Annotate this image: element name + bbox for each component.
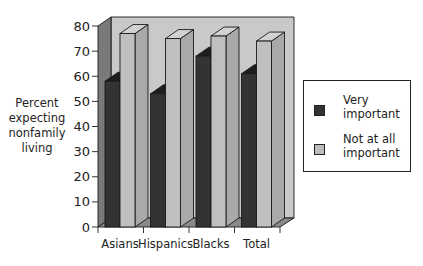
- bar-asians-very-important: [105, 81, 120, 227]
- legend: Very important Not at all important: [303, 80, 411, 172]
- bar-side: [135, 25, 148, 227]
- y-axis-label-line: nonfamily: [0, 126, 74, 141]
- y-tick-label: 20: [73, 169, 90, 184]
- x-category-label: Blacks: [192, 237, 229, 251]
- y-axis-label-line: living: [0, 141, 74, 156]
- bar-blacks-not-at-all-important: [211, 36, 226, 227]
- y-axis-label-line: expecting: [0, 111, 74, 126]
- x-category-label: Hispanics: [138, 237, 193, 251]
- y-tick-label: 50: [73, 94, 90, 109]
- bar-blacks-very-important: [196, 56, 211, 227]
- bar-hispanics-not-at-all-important: [166, 39, 181, 227]
- x-category-label: Asians: [101, 237, 138, 251]
- y-tick-label: 70: [73, 44, 90, 59]
- legend-label: important: [343, 107, 409, 121]
- y-tick-label: 0: [82, 220, 90, 235]
- y-tick-label: 80: [73, 19, 90, 34]
- bar-side: [272, 32, 285, 227]
- y-axis-label: Percent expecting nonfamily living: [0, 96, 74, 156]
- y-tick-label: 40: [73, 119, 90, 134]
- legend-label: important: [343, 146, 409, 160]
- y-axis-label-line: Percent: [0, 96, 74, 111]
- legend-swatch-dark: [314, 105, 325, 116]
- y-tick-label: 60: [73, 69, 90, 84]
- bar-total-not-at-all-important: [257, 41, 272, 227]
- y-tick-label: 10: [73, 194, 90, 209]
- bar-hispanics-very-important: [151, 94, 166, 227]
- bar-total-very-important: [242, 74, 257, 227]
- y-tick-label: 30: [73, 144, 90, 159]
- bar-asians-not-at-all-important: [120, 34, 135, 227]
- bar-side: [226, 27, 239, 227]
- legend-swatch-light: [314, 144, 325, 155]
- legend-label: Not at all: [343, 132, 409, 146]
- bar-side: [181, 30, 194, 227]
- legend-label: Very: [343, 93, 409, 107]
- x-category-label: Total: [242, 237, 270, 251]
